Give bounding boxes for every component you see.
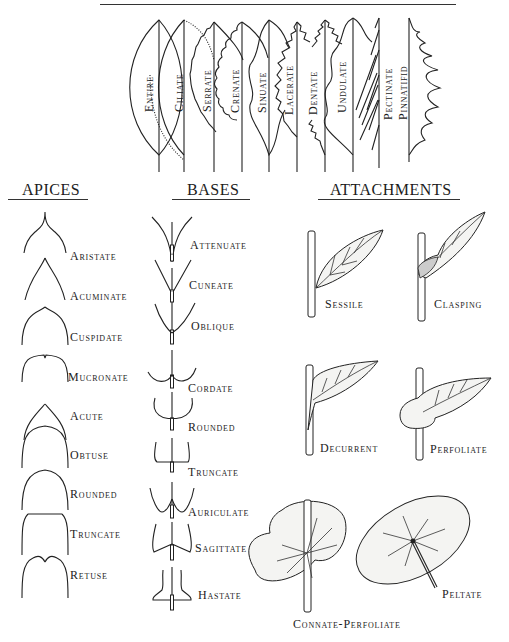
attachment-label-connate-perfoliate: Connate-Perfoliate	[293, 617, 401, 632]
attachments-illustration	[0, 0, 509, 642]
attachment-label-peltate: Peltate	[442, 587, 482, 602]
attachment-connate-perfoliate-icon	[249, 500, 346, 612]
attachment-label-clasping: Clasping	[434, 297, 482, 312]
attachment-label-sessile: Sessile	[325, 297, 364, 312]
attachment-label-perfoliate: Perfoliate	[430, 442, 487, 457]
attachment-peltate-icon	[341, 478, 484, 602]
attachment-label-decurrent: Decurrent	[320, 441, 378, 456]
